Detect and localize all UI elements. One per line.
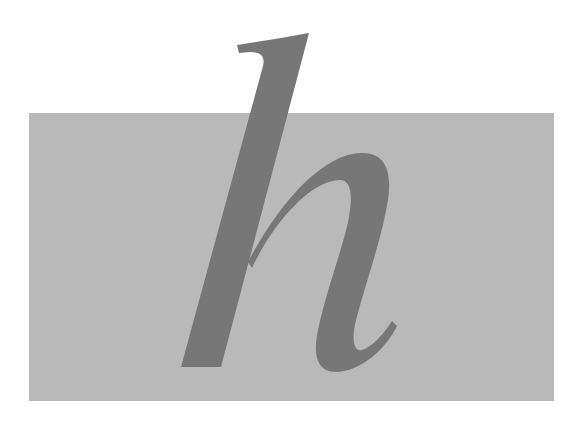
italic-h-letter-icon bbox=[0, 0, 581, 431]
illustration: h bbox=[0, 0, 581, 431]
